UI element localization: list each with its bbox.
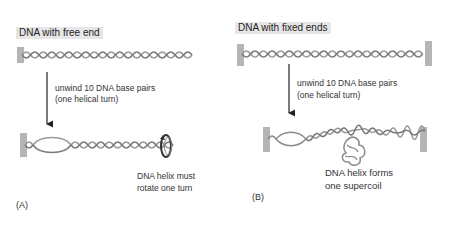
fixed-end-block-left xyxy=(263,127,270,152)
panel-a-bottom-helix-group xyxy=(20,133,173,157)
panel-b-bottom-helix-group xyxy=(263,125,427,165)
panel-b-step-line1: unwind 10 DNA base pairs xyxy=(297,78,397,89)
fixed-end-block-right xyxy=(425,41,432,66)
panel-b-result-line1: DNA helix forms xyxy=(325,167,393,179)
unwound-bubble xyxy=(268,132,306,146)
panel-a-title: DNA with free end xyxy=(16,27,103,39)
panel-b-title: DNA with fixed ends xyxy=(235,22,331,34)
panel-b-top-helix-group xyxy=(237,41,432,66)
supercoil-loop xyxy=(342,137,364,165)
panel-a-result-line1: DNA helix must xyxy=(137,171,195,182)
panel-b-step-line2: (one helical turn) xyxy=(297,90,360,101)
panel-a-label: (A) xyxy=(16,200,28,210)
panel-a-top-helix-group xyxy=(17,47,192,63)
panel-a-result-line2: rotate one turn xyxy=(137,183,192,194)
panel-b-result-line2: one supercoil xyxy=(325,180,382,192)
dna-helix-strand-2 xyxy=(306,125,425,140)
panel-a-step-line1: unwind 10 DNA base pairs xyxy=(55,83,155,94)
panel-b-label: (B) xyxy=(252,192,264,202)
panel-a-step-line2: (one helical turn) xyxy=(55,94,118,105)
dna-helix-strand-2 xyxy=(22,52,192,58)
